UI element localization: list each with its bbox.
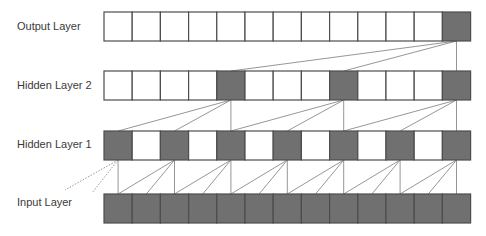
inactive-node	[245, 12, 273, 41]
active-node	[104, 131, 132, 160]
active-node	[442, 194, 470, 223]
active-node	[273, 194, 301, 223]
inactive-node	[189, 71, 217, 100]
active-node	[104, 194, 132, 223]
connection-line	[372, 160, 400, 194]
active-node	[414, 194, 442, 223]
layer-label-hidden1: Hidden Layer 1	[17, 138, 92, 150]
inactive-node	[132, 71, 160, 100]
padding-connection-line	[65, 160, 118, 190]
connection-line	[400, 160, 456, 194]
layer-row-hidden1	[104, 131, 471, 160]
inactive-node	[217, 12, 245, 41]
layer-row-input	[104, 194, 471, 223]
active-node	[273, 131, 301, 160]
layer-labels: Output LayerHidden Layer 2Hidden Layer 1…	[17, 20, 92, 208]
layer-label-output: Output Layer	[17, 20, 81, 32]
inactive-node	[358, 71, 386, 100]
active-node	[189, 194, 217, 223]
connection-line	[118, 100, 231, 131]
active-node	[245, 194, 273, 223]
inactive-node	[104, 12, 132, 41]
active-node	[386, 194, 414, 223]
dilated-convolution-diagram: Output LayerHidden Layer 2Hidden Layer 1…	[0, 0, 486, 236]
inactive-node	[245, 131, 273, 160]
connection-line	[203, 160, 231, 194]
active-node	[330, 194, 358, 223]
connection-line	[344, 41, 457, 71]
inactive-node	[386, 71, 414, 100]
connection-line	[118, 160, 174, 194]
inactive-node	[189, 12, 217, 41]
active-node	[301, 194, 329, 223]
inactive-node	[273, 71, 301, 100]
active-node	[442, 12, 470, 41]
connection-line	[400, 100, 456, 131]
connection-line	[175, 100, 231, 131]
active-node	[330, 131, 358, 160]
layer-label-input: Input Layer	[17, 196, 72, 208]
connection-line	[175, 160, 231, 194]
inactive-node	[160, 71, 188, 100]
active-node	[160, 194, 188, 223]
inactive-node	[414, 131, 442, 160]
active-node	[358, 194, 386, 223]
connection-line	[428, 160, 456, 194]
active-node	[217, 131, 245, 160]
connection-line	[231, 160, 287, 194]
inactive-node	[414, 12, 442, 41]
active-node	[217, 71, 245, 100]
connection-line	[287, 160, 343, 194]
active-node	[442, 131, 470, 160]
layer-label-hidden2: Hidden Layer 2	[17, 79, 92, 91]
active-node	[386, 131, 414, 160]
layer-row-output	[104, 12, 471, 41]
active-node	[132, 194, 160, 223]
inactive-node	[358, 131, 386, 160]
inactive-node	[273, 12, 301, 41]
connection-lines	[65, 41, 457, 194]
inactive-node	[104, 71, 132, 100]
connection-line	[231, 41, 457, 71]
inactive-node	[132, 12, 160, 41]
connection-line	[146, 160, 174, 194]
connection-line	[344, 100, 457, 131]
inactive-node	[132, 131, 160, 160]
active-node	[217, 194, 245, 223]
layer-row-hidden2	[104, 71, 471, 100]
inactive-node	[160, 12, 188, 41]
inactive-node	[358, 12, 386, 41]
inactive-node	[301, 12, 329, 41]
active-node	[330, 71, 358, 100]
connection-line	[287, 100, 343, 131]
connection-line	[316, 160, 344, 194]
inactive-node	[301, 131, 329, 160]
inactive-node	[386, 12, 414, 41]
inactive-node	[245, 71, 273, 100]
active-node	[442, 71, 470, 100]
connection-line	[231, 100, 344, 131]
inactive-node	[189, 131, 217, 160]
inactive-node	[330, 12, 358, 41]
active-node	[160, 131, 188, 160]
connection-line	[344, 160, 400, 194]
padding-connection-line	[92, 160, 118, 193]
inactive-node	[414, 71, 442, 100]
inactive-node	[301, 71, 329, 100]
connection-line	[259, 160, 287, 194]
